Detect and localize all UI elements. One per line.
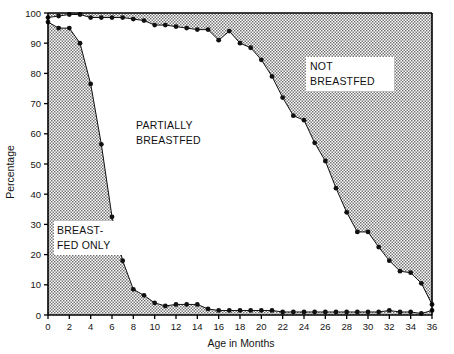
x-tick-label: 4 <box>88 321 93 332</box>
series-1-marker <box>195 27 200 32</box>
series-0-marker <box>152 301 157 306</box>
series-0-marker <box>163 304 168 309</box>
series-0-marker <box>56 26 61 31</box>
series-0-marker <box>312 310 317 315</box>
series-0-marker <box>408 310 413 315</box>
y-axis-title: Percentage <box>4 145 16 199</box>
x-tick-label: 22 <box>277 321 288 332</box>
x-tick-label: 6 <box>109 321 114 332</box>
x-tick-label: 28 <box>341 321 352 332</box>
chart-canvas: 0102030405060708090100024681012141618202… <box>0 0 454 354</box>
series-0-marker <box>238 308 243 313</box>
series-1-marker <box>291 113 296 118</box>
x-tick-label: 14 <box>192 321 203 332</box>
series-1-marker <box>344 210 349 215</box>
series-0-marker <box>280 310 285 315</box>
annotation-breastfed-only-line1: BREAST- <box>57 224 104 236</box>
x-tick-label: 0 <box>45 321 50 332</box>
series-0-marker <box>355 310 360 315</box>
series-0-marker <box>227 308 232 313</box>
annotation-not-breastfed-line2: BREASTFED <box>310 75 375 87</box>
series-1-marker <box>184 26 189 31</box>
series-1-marker <box>206 27 211 32</box>
series-1-marker <box>88 15 93 20</box>
x-tick-label: 8 <box>131 321 136 332</box>
x-tick-label: 12 <box>171 321 182 332</box>
annotation-breastfed-only-line2: FED ONLY <box>57 239 110 251</box>
annotation-breastfed-only: BREAST- FED ONLY <box>54 221 132 255</box>
series-0-marker <box>216 308 221 313</box>
series-0-marker <box>376 310 381 315</box>
series-0-marker <box>110 214 115 219</box>
series-1-marker <box>355 230 360 235</box>
series-1-marker <box>56 14 61 19</box>
series-0-marker <box>344 310 349 315</box>
series-1-marker <box>99 15 104 20</box>
y-tick-label: 60 <box>30 128 41 139</box>
series-0-marker <box>366 310 371 315</box>
x-tick-label: 36 <box>427 321 438 332</box>
series-0-marker <box>99 142 104 147</box>
series-0-marker <box>120 258 125 263</box>
x-tick-label: 16 <box>213 321 224 332</box>
x-tick-label: 20 <box>256 321 267 332</box>
series-0-marker <box>302 310 307 315</box>
series-1-marker <box>227 29 232 34</box>
series-0-marker <box>78 41 83 46</box>
series-1-marker <box>387 258 392 263</box>
series-1-marker <box>131 17 136 22</box>
series-1-marker <box>419 281 424 286</box>
series-1-marker <box>270 74 275 79</box>
y-tick-label: 50 <box>30 159 41 170</box>
series-1-marker <box>366 230 371 235</box>
series-1-marker <box>238 41 243 46</box>
series-0-marker <box>398 310 403 315</box>
series-0-marker <box>334 310 339 315</box>
series-0-marker <box>67 26 72 31</box>
annotation-not-breastfed-line1: NOT <box>310 60 333 72</box>
series-0-marker <box>184 302 189 307</box>
x-tick-label: 34 <box>405 321 416 332</box>
x-tick-label: 32 <box>384 321 395 332</box>
series-0-marker <box>174 302 179 307</box>
y-tick-label: 30 <box>30 219 41 230</box>
annotation-partially-breastfed-line1: PARTIALLY <box>136 119 193 131</box>
series-0-marker <box>142 293 147 298</box>
series-0-marker <box>195 302 200 307</box>
series-1-marker <box>398 269 403 274</box>
annotation-partially-breastfed-line2: BREASTFED <box>136 134 201 146</box>
annotation-not-breastfed: NOT BREASTFED <box>306 57 394 91</box>
y-tick-label: 20 <box>30 249 41 260</box>
breastfeeding-area-chart: 0102030405060708090100024681012141618202… <box>0 0 454 354</box>
series-0-marker <box>387 308 392 313</box>
series-1-marker <box>174 24 179 29</box>
series-1-marker <box>323 159 328 164</box>
y-tick-label: 90 <box>30 38 41 49</box>
y-tick-label: 0 <box>36 310 41 321</box>
series-1-marker <box>216 38 221 43</box>
series-1-marker <box>110 15 115 20</box>
y-tick-label: 40 <box>30 189 41 200</box>
series-1-marker <box>312 140 317 145</box>
series-1-marker <box>280 95 285 100</box>
x-tick-label: 2 <box>67 321 72 332</box>
series-1-marker <box>376 245 381 250</box>
series-0-marker <box>270 308 275 313</box>
y-tick-label: 100 <box>25 8 41 19</box>
y-tick-label: 10 <box>30 279 41 290</box>
series-0-marker <box>259 308 264 313</box>
x-tick-label: 30 <box>363 321 374 332</box>
series-1-marker <box>259 57 264 62</box>
x-tick-label: 24 <box>299 321 310 332</box>
series-1-marker <box>120 15 125 20</box>
series-0-marker <box>131 287 136 292</box>
series-1-marker <box>408 270 413 275</box>
x-tick-label: 10 <box>149 321 160 332</box>
x-tick-label: 18 <box>235 321 246 332</box>
series-1-marker <box>302 118 307 123</box>
series-1-marker <box>248 45 253 50</box>
x-axis-title: Age in Months <box>207 337 274 349</box>
series-0-marker <box>206 307 211 312</box>
series-1-marker <box>334 186 339 191</box>
series-0-marker <box>88 82 93 87</box>
